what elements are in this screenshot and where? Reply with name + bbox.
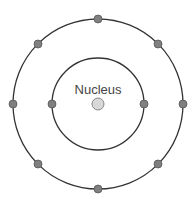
nucleus [92, 98, 104, 110]
electron [154, 160, 162, 168]
electron [154, 40, 162, 48]
atom-diagram: Nucleus [0, 0, 196, 208]
electron [94, 185, 102, 193]
electron [48, 100, 56, 108]
electron [9, 100, 17, 108]
electron [179, 100, 187, 108]
electron [140, 100, 148, 108]
nucleus-label: Nucleus [75, 82, 122, 97]
electron [94, 15, 102, 23]
electron [34, 40, 42, 48]
electron [34, 160, 42, 168]
